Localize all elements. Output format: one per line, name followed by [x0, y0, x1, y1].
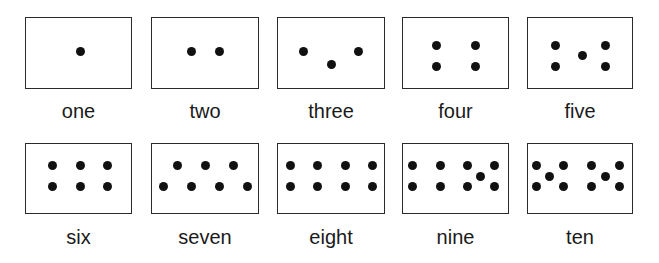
dot-icon	[436, 182, 445, 191]
dot-icon	[559, 161, 568, 170]
dot-icon	[243, 182, 252, 191]
dot-icon	[587, 182, 596, 191]
dot-card-four	[402, 17, 509, 89]
dot-icon	[545, 172, 554, 181]
dot-icon	[286, 161, 295, 170]
dot-icon	[408, 182, 417, 191]
dot-icon	[286, 182, 295, 191]
dot-icon	[313, 182, 322, 191]
dot-icon	[551, 62, 560, 71]
dot-icon	[341, 161, 350, 170]
dot-icon	[615, 161, 624, 170]
dot-icon	[215, 47, 224, 56]
dot-card-six	[25, 143, 132, 214]
dot-icon	[432, 62, 441, 71]
dot-icon	[341, 182, 350, 191]
number-label: seven	[145, 226, 265, 248]
number-label: ten	[520, 226, 640, 248]
dot-icon	[215, 182, 224, 191]
dot-icon	[463, 182, 472, 191]
dot-icon	[408, 161, 417, 170]
dot-icon	[368, 161, 377, 170]
dot-card-seven	[151, 143, 259, 214]
dot-icon	[76, 47, 85, 56]
dot-icon	[471, 62, 480, 71]
dot-icon	[229, 161, 238, 170]
dot-card-ten	[527, 143, 633, 214]
dot-icon	[578, 51, 587, 60]
number-label: five	[520, 100, 640, 122]
dot-icon	[432, 41, 441, 50]
number-label: one	[19, 100, 139, 122]
dot-icon	[532, 182, 541, 191]
dot-icon	[587, 161, 596, 170]
dot-icon	[76, 182, 85, 191]
dot-icon	[463, 161, 472, 170]
dot-icon	[313, 161, 322, 170]
dot-icon	[471, 41, 480, 50]
dot-icon	[368, 182, 377, 191]
dot-icon	[490, 161, 499, 170]
dot-icon	[187, 47, 196, 56]
dot-card-nine	[402, 143, 509, 214]
dot-icon	[187, 182, 196, 191]
dot-card-three	[277, 17, 385, 89]
dot-icon	[354, 47, 363, 56]
dot-icon	[532, 161, 541, 170]
number-label: nine	[396, 226, 516, 248]
dot-icon	[159, 182, 168, 191]
dot-icon	[201, 161, 210, 170]
dot-icon	[601, 41, 610, 50]
number-label: eight	[271, 226, 391, 248]
dot-icon	[103, 161, 112, 170]
dot-icon	[601, 62, 610, 71]
dot-card-eight	[277, 143, 385, 214]
dot-icon	[173, 161, 182, 170]
dot-icon	[476, 172, 485, 181]
dot-icon	[76, 161, 85, 170]
dot-icon	[48, 182, 57, 191]
dot-icon	[48, 161, 57, 170]
number-label: two	[145, 100, 265, 122]
dot-icon	[103, 182, 112, 191]
number-label: four	[396, 100, 516, 122]
number-label: six	[19, 226, 139, 248]
dot-icon	[436, 161, 445, 170]
dot-icon	[559, 182, 568, 191]
dot-icon	[327, 60, 336, 69]
dot-card-two	[151, 17, 259, 89]
dot-icon	[601, 172, 610, 181]
dot-icon	[551, 41, 560, 50]
dot-icon	[490, 182, 499, 191]
dot-icon	[299, 47, 308, 56]
dot-icon	[615, 182, 624, 191]
number-label: three	[271, 100, 391, 122]
